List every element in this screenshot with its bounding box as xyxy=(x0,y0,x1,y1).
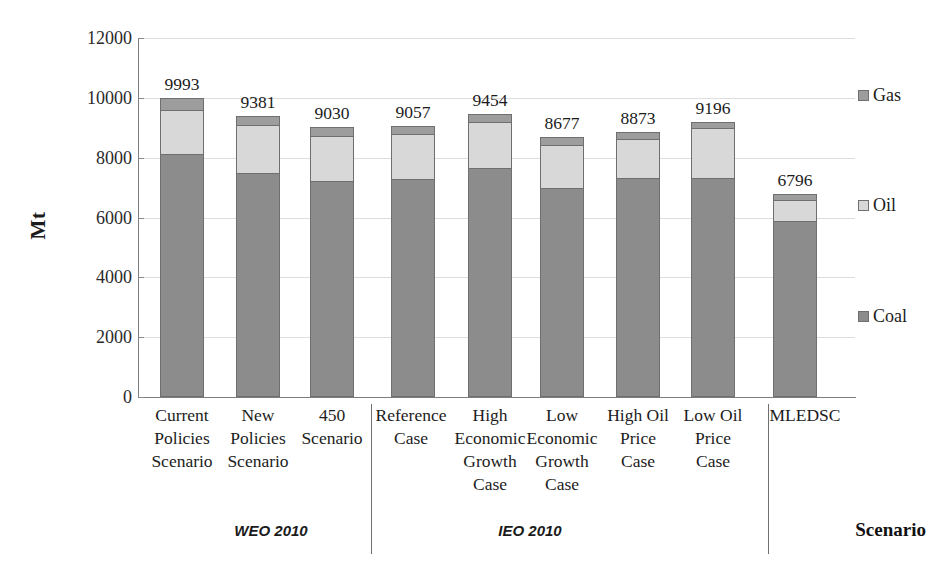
bar-segment-oil xyxy=(540,145,584,188)
category-label-line: Case xyxy=(597,450,679,473)
y-axis-tick-mark xyxy=(138,218,144,219)
bar-segment-gas xyxy=(540,137,584,144)
category-label-line: New xyxy=(217,404,299,427)
x-axis-category-label: LowEconomicGrowthCase xyxy=(521,404,603,496)
bar-segment-oil xyxy=(773,200,817,221)
legend-label: Oil xyxy=(873,196,896,214)
bar-segment-coal xyxy=(540,188,584,397)
group-separator xyxy=(371,404,372,554)
y-axis-tick-label: 8000 xyxy=(50,149,132,167)
legend-swatch-gas xyxy=(858,90,869,101)
legend-label: Coal xyxy=(873,307,907,325)
x-axis-category-label: NewPoliciesScenario xyxy=(217,404,299,473)
y-axis-tick-mark xyxy=(138,397,144,398)
category-label-line: Policies xyxy=(141,427,223,450)
legend-swatch-coal xyxy=(858,311,869,322)
bar-segment-coal xyxy=(160,154,204,397)
bar-value-label: 9993 xyxy=(134,75,230,93)
y-axis-tick-label: 12000 xyxy=(50,29,132,47)
group-separator xyxy=(768,404,769,554)
category-label-line: Low Oil xyxy=(672,404,754,427)
bar-column xyxy=(540,38,584,397)
legend-item-oil: Oil xyxy=(858,196,896,214)
bar-value-label: 9454 xyxy=(442,91,538,109)
legend-item-coal: Coal xyxy=(858,307,907,325)
y-axis-tick-mark xyxy=(138,38,144,39)
y-axis-tick-label: 6000 xyxy=(50,209,132,227)
x-axis-category-label: High OilPriceCase xyxy=(597,404,679,473)
bar-column xyxy=(773,38,817,397)
bar-segment-oil xyxy=(310,136,354,181)
bar-segment-coal xyxy=(468,168,512,397)
category-label-line: Case xyxy=(449,473,531,496)
bar-value-label: 6796 xyxy=(747,171,843,189)
category-label-line: High xyxy=(449,404,531,427)
bar-segment-coal xyxy=(236,173,280,397)
bar-segment-oil xyxy=(468,122,512,168)
category-label-line: Scenario xyxy=(291,427,373,450)
category-label-line: Scenario xyxy=(141,450,223,473)
bar-segment-gas xyxy=(616,132,660,139)
category-label-line: Growth xyxy=(521,450,603,473)
bar-segment-gas xyxy=(391,126,435,134)
y-axis-tick-label: 2000 xyxy=(50,328,132,346)
y-axis-tick-mark xyxy=(138,277,144,278)
legend: GasOilCoal xyxy=(858,0,940,420)
group-label: WEO 2010 xyxy=(196,522,346,539)
bar-segment-oil xyxy=(236,125,280,172)
category-label-line: High Oil xyxy=(597,404,679,427)
bar-column xyxy=(310,38,354,397)
category-label-line: Low xyxy=(521,404,603,427)
bar-segment-oil xyxy=(616,139,660,178)
category-label-line: Economic xyxy=(449,427,531,450)
category-label-line: Current xyxy=(141,404,223,427)
bar-segment-gas xyxy=(468,114,512,122)
bar-column xyxy=(691,38,735,397)
y-axis-tick-mark xyxy=(138,98,144,99)
y-axis-tick-mark xyxy=(138,337,144,338)
category-label-line: Scenario xyxy=(217,450,299,473)
bar-segment-oil xyxy=(691,128,735,178)
x-axis-category-label: HighEconomicGrowthCase xyxy=(449,404,531,496)
x-axis-line xyxy=(138,397,856,398)
bar-segment-coal xyxy=(691,178,735,397)
bar-segment-coal xyxy=(773,221,817,398)
bar-segment-gas xyxy=(236,116,280,125)
group-label: IEO 2010 xyxy=(455,522,605,539)
legend-label: Gas xyxy=(873,86,901,104)
bar-column xyxy=(616,38,660,397)
x-axis-category-label: 450Scenario xyxy=(291,404,373,450)
y-axis-tick-label: 4000 xyxy=(50,268,132,286)
bar-segment-coal xyxy=(391,179,435,397)
y-axis-tick-mark xyxy=(138,158,144,159)
category-label-line: Price xyxy=(597,427,679,450)
x-axis-category-labels: CurrentPoliciesScenarioNewPoliciesScenar… xyxy=(0,404,940,504)
legend-swatch-oil xyxy=(858,200,869,211)
category-label-line: Economic xyxy=(521,427,603,450)
x-axis-category-label: Low OilPriceCase xyxy=(672,404,754,473)
bar-segment-gas xyxy=(310,127,354,136)
x-axis-title: Scenario xyxy=(855,519,926,541)
category-label-line: Policies xyxy=(217,427,299,450)
legend-item-gas: Gas xyxy=(858,86,901,104)
category-label-line: Growth xyxy=(449,450,531,473)
x-axis-category-label: MLEDSC xyxy=(764,404,846,427)
category-label-line: Price xyxy=(672,427,754,450)
category-label-line: MLEDSC xyxy=(764,404,846,427)
bar-value-label: 9196 xyxy=(665,99,761,117)
category-label-line: Reference xyxy=(370,404,452,427)
bar-segment-gas xyxy=(160,98,204,110)
bar-segment-oil xyxy=(160,110,204,154)
y-axis-tick-label: 10000 xyxy=(50,89,132,107)
category-label-line: Case xyxy=(370,427,452,450)
bar-segment-coal xyxy=(616,178,660,397)
category-label-line: Case xyxy=(672,450,754,473)
bar-segment-coal xyxy=(310,181,354,397)
stacked-bar-chart: Mt 020004000600080001000012000 999393819… xyxy=(0,0,940,575)
bar-column xyxy=(391,38,435,397)
category-label-line: 450 xyxy=(291,404,373,427)
category-label-line: Case xyxy=(521,473,603,496)
bar-segment-oil xyxy=(391,134,435,179)
x-axis-category-label: ReferenceCase xyxy=(370,404,452,450)
x-axis-category-label: CurrentPoliciesScenario xyxy=(141,404,223,473)
